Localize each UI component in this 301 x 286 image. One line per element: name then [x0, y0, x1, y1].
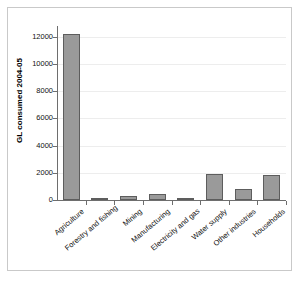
bar [149, 194, 166, 200]
y-tick-label-wrap: 2000 [0, 169, 53, 177]
bar [263, 175, 280, 200]
gridline [57, 91, 286, 92]
bar [91, 198, 108, 200]
x-tick-mark [257, 201, 258, 205]
x-tick-mark [86, 201, 87, 205]
y-tick-label: 0 [9, 196, 53, 204]
y-axis-title: GL consumed 2004-05 [15, 46, 24, 156]
x-tick-mark [229, 201, 230, 205]
y-tick-label-wrap: 12000 [0, 33, 53, 41]
bar-chart: 020004000600080001000012000 GL consumed … [0, 0, 301, 286]
gridline [57, 173, 286, 174]
bar [120, 196, 137, 200]
bar [206, 174, 223, 200]
y-tick-label-wrap: 8000 [0, 87, 53, 95]
bar [235, 189, 252, 200]
x-tick-mark [143, 201, 144, 205]
y-tick-label: 12000 [9, 33, 53, 41]
y-tick-label: 2000 [9, 169, 53, 177]
gridline [57, 146, 286, 147]
y-axis-line [57, 26, 58, 200]
y-tick-label-wrap: 4000 [0, 142, 53, 150]
x-tick-mark [286, 201, 287, 205]
bar [177, 198, 194, 200]
gridline [57, 37, 286, 38]
x-tick-label: Agriculture [34, 207, 86, 252]
y-tick-label-wrap: 10000 [0, 60, 53, 68]
bar [63, 34, 80, 200]
x-tick-mark [172, 201, 173, 205]
gridline [57, 118, 286, 119]
y-tick-label-wrap: 6000 [0, 114, 53, 122]
gridline [57, 64, 286, 65]
x-axis-line [57, 200, 286, 201]
y-tick-label-wrap: 0 [0, 196, 53, 204]
x-tick-mark [200, 201, 201, 205]
